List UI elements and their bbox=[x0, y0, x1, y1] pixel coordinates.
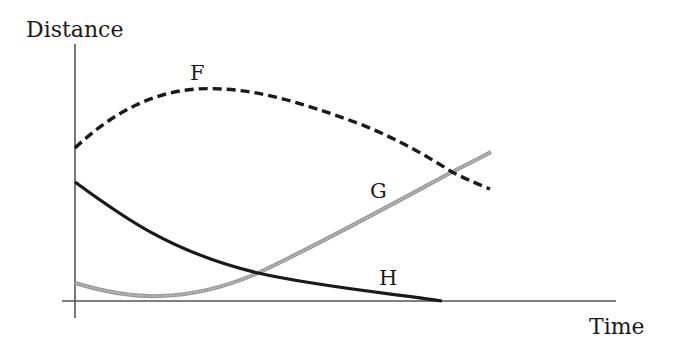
x-axis-title: Time bbox=[589, 314, 645, 339]
label-g: G bbox=[370, 179, 387, 203]
distance-time-chart: Distance Time F G H bbox=[0, 0, 675, 343]
curve-f bbox=[75, 89, 490, 189]
label-h: H bbox=[379, 266, 397, 290]
y-axis-title: Distance bbox=[26, 17, 123, 42]
label-f: F bbox=[190, 61, 205, 85]
